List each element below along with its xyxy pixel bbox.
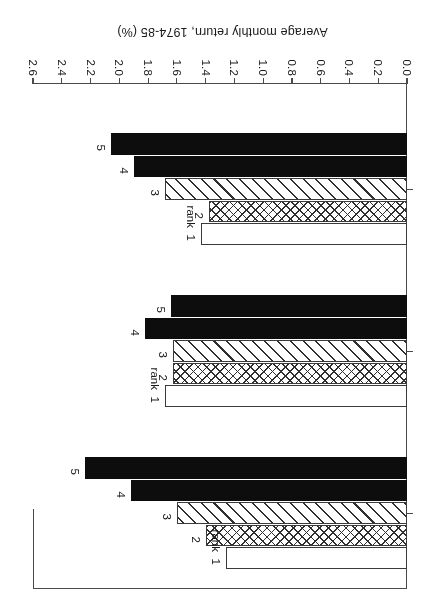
plot-border-right [33,509,34,589]
axis-tick [176,78,177,84]
bar-sigma-rank-2 [209,201,407,223]
category-label-beta: Beta rank [387,358,445,412]
axis-tick-label: 0.6 [315,59,327,76]
bar-rank-label: 1 [149,397,161,403]
axis-tick [406,78,407,84]
bar-chart-figure: 0.00.20.40.60.81.01.21.41.61.82.02.22.42… [0,0,445,605]
bar-sigma-rank-1 [201,224,407,246]
bar-safety-rank-2 [206,525,407,547]
rank-word-label: rank [185,206,197,228]
bar-beta-rank-5 [171,296,407,318]
axis-tick [32,78,33,84]
bar-beta-rank-3 [173,341,407,363]
bar-rank-label: 4 [115,491,127,497]
value-axis-title: Average monthly return, 1974-85 (%) [0,25,445,39]
plot-border-top [33,588,407,589]
axis-tick-label: 0.4 [343,59,355,76]
bar-safety-rank-3 [177,503,407,525]
bar-rank-label: 1 [185,235,197,241]
bar-sigma-rank-3 [165,179,407,201]
axis-tick-label: 1.6 [171,59,183,76]
axis-tick [90,78,91,84]
category-tick [407,351,413,352]
rank-word-label: rank [149,368,161,390]
bar-safety-rank-1 [226,548,407,570]
bar-rank-label: 4 [118,167,130,173]
axis-tick-label: 2.6 [27,59,39,76]
bar-rank-label: 5 [69,469,81,475]
bar-sigma-rank-5 [111,134,407,156]
bar-rank-label: 5 [95,145,107,151]
bar-beta-rank-1 [165,386,407,408]
rank-word-label: rank [210,530,222,552]
bar-rank-label: 4 [129,329,141,335]
axis-tick [234,78,235,84]
axis-tick-label: 1.4 [200,59,212,76]
axis-tick-label: 1.8 [142,59,154,76]
bar-sigma-rank-4 [134,156,407,178]
axis-tick-label: 2.2 [85,59,97,76]
axis-tick [291,78,292,84]
bar-safety-rank-5 [85,458,407,480]
bar-beta-rank-2 [173,363,407,385]
axis-tick [61,78,62,84]
bar-rank-label: 5 [155,307,167,313]
axis-tick [119,78,120,84]
bar-rank-label: 3 [157,352,169,358]
axis-tick-label: 0.8 [286,59,298,76]
bar-rank-label: 3 [149,190,161,196]
axis-tick [320,78,321,84]
axis-tick-label: 0.2 [372,59,384,76]
bar-safety-rank-4 [131,480,407,502]
bar-rank-label: 2 [190,536,202,542]
category-label-safety: Safety rank [387,510,445,573]
axis-tick-label: 0.0 [401,59,413,76]
axis-tick [378,78,379,84]
bar-rank-label: 3 [161,514,173,520]
axis-tick-label: 2.4 [56,59,68,76]
bar-beta-rank-4 [145,318,407,340]
axis-tick-label: 2.0 [113,59,125,76]
category-label-sigma: Sigma rank [387,186,445,249]
axis-tick [349,78,350,84]
axis-tick-label: 1.0 [257,59,269,76]
bar-rank-label: 1 [210,559,222,565]
axis-tick [205,78,206,84]
axis-tick [148,78,149,84]
axis-tick-label: 1.2 [228,59,240,76]
axis-tick [263,78,264,84]
